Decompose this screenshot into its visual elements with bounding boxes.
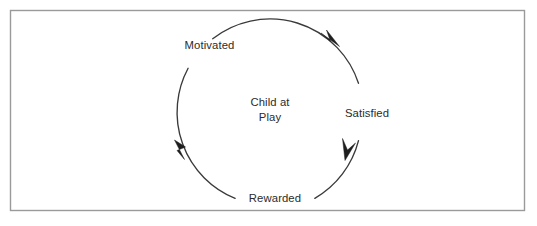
stage-label-rewarded: Rewarded — [249, 192, 301, 204]
center-label-line-1: Child at — [250, 96, 290, 108]
diagram-canvas: Motivated Satisfied Rewarded Child at Pl… — [0, 0, 537, 226]
center-label-line-2: Play — [259, 111, 282, 123]
stage-label-satisfied: Satisfied — [345, 107, 389, 119]
cycle-diagram: Motivated Satisfied Rewarded Child at Pl… — [0, 0, 537, 226]
stage-label-motivated: Motivated — [185, 39, 235, 51]
